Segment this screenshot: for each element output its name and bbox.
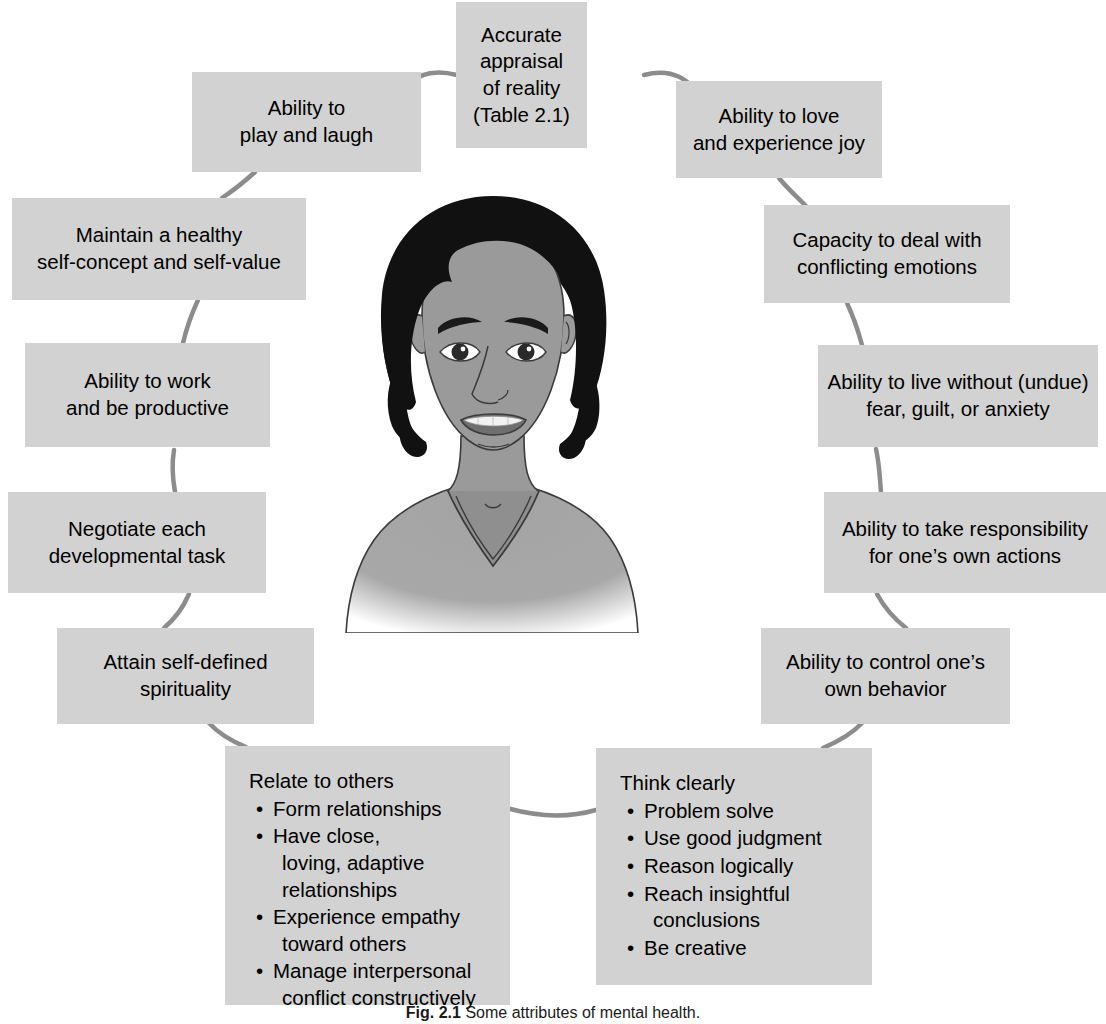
bullet-dot-icon: •	[256, 823, 263, 850]
list-item-line: Form relationships	[273, 797, 442, 820]
list-title: Relate to others	[249, 768, 394, 795]
figure-caption: Fig. 2.1 Some attributes of mental healt…	[0, 1004, 1106, 1022]
connector-selfconcept-to-work	[183, 300, 198, 343]
iris-left	[452, 344, 469, 361]
node-control-own-behavior[interactable]: Ability to control one’s own behavior	[761, 628, 1010, 724]
connector-spirituality-to-relate	[208, 722, 246, 747]
node-line: Negotiate each	[68, 516, 206, 543]
node-think-clearly[interactable]: Think clearly • Problem solve • Use good…	[596, 748, 872, 985]
connector-relate-to-think	[500, 806, 596, 816]
list-item-line: Reach insightful	[644, 882, 790, 905]
connector-developmental-to-spirituality	[164, 594, 189, 628]
node-developmental-task[interactable]: Negotiate each developmental task	[8, 492, 266, 593]
list-item: • Problem solve	[644, 798, 822, 825]
node-line: Maintain a healthy	[76, 222, 242, 249]
list-item-line: Manage interpersonal	[273, 959, 471, 982]
node-take-responsibility[interactable]: Ability to take responsibility for one’s…	[824, 492, 1106, 593]
bullet-dot-icon: •	[627, 825, 634, 852]
node-line: Ability to take responsibility	[842, 516, 1088, 543]
node-accurate-appraisal[interactable]: Accurate appraisal of reality (Table 2.1…	[456, 2, 587, 148]
connector-fear-to-responsibility	[876, 449, 881, 493]
node-live-without-fear[interactable]: Ability to live without (undue) fear, gu…	[818, 345, 1098, 447]
person-illustration	[330, 188, 655, 633]
node-line: Attain self-defined	[103, 649, 267, 676]
pupil-highlight-right	[527, 347, 532, 352]
node-line: Accurate	[481, 22, 562, 49]
list-item: • Use good judgment	[644, 825, 822, 852]
iris-right	[518, 344, 535, 361]
node-play-and-laugh[interactable]: Ability to play and laugh	[192, 72, 421, 172]
node-line: play and laugh	[240, 122, 373, 149]
node-line: Ability to love	[719, 103, 840, 130]
connector-responsibility-to-control	[877, 594, 906, 628]
list-item-line: Problem solve	[644, 799, 774, 822]
list-item-line: relationships	[273, 877, 476, 904]
figure-label: Fig. 2.1	[406, 1004, 461, 1021]
bullet-dot-icon: •	[256, 796, 263, 823]
node-line: developmental task	[49, 543, 226, 570]
list-item-line: Experience empathy	[273, 905, 460, 928]
node-line: conflicting emotions	[797, 254, 977, 281]
node-work-and-productive[interactable]: Ability to work and be productive	[25, 343, 270, 447]
connector-play-to-selfconcept	[222, 172, 255, 198]
list-item-line: loving, adaptive	[273, 850, 476, 877]
mental-health-attributes-figure: Accurate appraisal of reality (Table 2.1…	[0, 0, 1106, 1024]
node-self-defined-spirituality[interactable]: Attain self-defined spirituality	[57, 628, 314, 724]
node-line: self-concept and self-value	[37, 249, 281, 276]
list-item: • Experience empathy toward others	[273, 904, 476, 957]
node-healthy-self-concept[interactable]: Maintain a healthy self-concept and self…	[12, 198, 306, 300]
bullet-dot-icon: •	[256, 958, 263, 985]
node-line: Ability to control one’s	[786, 649, 985, 676]
list-item: • Reason logically	[644, 853, 822, 880]
node-conflicting-emotions[interactable]: Capacity to deal with conflicting emotio…	[764, 205, 1010, 303]
node-line: Ability to live without (undue)	[828, 369, 1089, 396]
node-line: Ability to	[268, 95, 345, 122]
connector-work-to-developmental	[173, 450, 175, 492]
bullet-dot-icon: •	[627, 881, 634, 908]
bullet-list: • Problem solve • Use good judgment • Re…	[602, 798, 822, 963]
node-line: of reality	[483, 75, 560, 102]
list-item-line: Have close,	[273, 824, 380, 847]
bullet-dot-icon: •	[627, 798, 634, 825]
list-item-line: toward others	[273, 931, 476, 958]
bullet-list: • Form relationships • Have close, lovin…	[231, 796, 476, 1013]
connector-control-to-think	[823, 723, 862, 748]
list-item: • Be creative	[644, 935, 822, 962]
node-relate-to-others[interactable]: Relate to others • Form relationships • …	[225, 746, 510, 1005]
figure-caption-text: Some attributes of mental health.	[465, 1004, 700, 1021]
list-item-line: Use good judgment	[644, 826, 822, 849]
list-item-line: Reason logically	[644, 854, 793, 877]
list-title: Think clearly	[620, 770, 735, 797]
node-line: (Table 2.1)	[473, 102, 570, 129]
hair-tuft-left-2	[399, 416, 427, 457]
node-line: appraisal	[480, 48, 563, 75]
node-love-and-joy[interactable]: Ability to love and experience joy	[676, 81, 882, 178]
list-item: • Form relationships	[273, 796, 476, 823]
connector-love-to-emotions	[779, 178, 806, 206]
bullet-dot-icon: •	[256, 904, 263, 931]
pupil-highlight-left	[461, 347, 466, 352]
node-line: own behavior	[825, 676, 947, 703]
node-line: for one’s own actions	[869, 543, 1061, 570]
node-line: and be productive	[66, 395, 229, 422]
node-line: and experience joy	[693, 130, 865, 157]
bullet-dot-icon: •	[627, 935, 634, 962]
list-item: • Have close, loving, adaptive relations…	[273, 823, 476, 903]
node-line: Capacity to deal with	[792, 227, 981, 254]
node-line: spirituality	[140, 676, 231, 703]
hair-tuft-right-2	[559, 418, 586, 459]
bullet-dot-icon: •	[627, 853, 634, 880]
list-item-line: conclusions	[644, 907, 822, 934]
list-item: • Reach insightful conclusions	[644, 881, 822, 934]
list-item-line: Be creative	[644, 936, 747, 959]
node-line: fear, guilt, or anxiety	[866, 396, 1049, 423]
node-line: Ability to work	[84, 368, 210, 395]
connector-emotions-to-fear	[847, 303, 862, 345]
